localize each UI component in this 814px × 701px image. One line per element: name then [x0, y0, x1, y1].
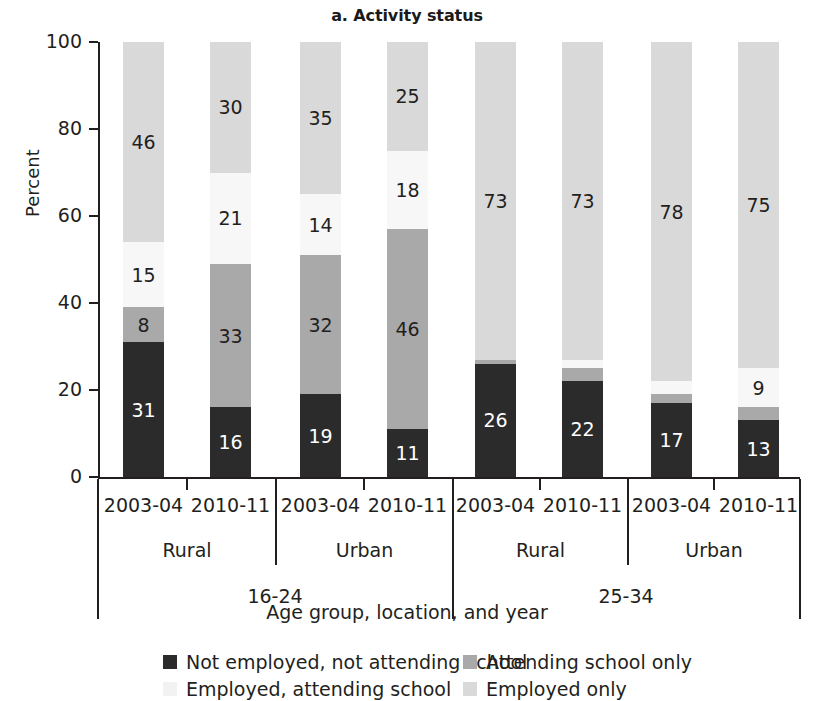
legend-label: Employed only: [486, 678, 627, 700]
legend-item-employed-only[interactable]: Employed only: [463, 678, 693, 700]
legend-label: Attending school only: [486, 651, 692, 673]
x-axis-location-separator: [275, 479, 277, 565]
bar-segment-attending_only: 46: [387, 229, 428, 429]
bar-segment-attending_only: [738, 407, 779, 420]
stacked-bar: 25184611: [387, 42, 428, 477]
bar-segment-not_employed_not_attending: 31: [123, 342, 164, 477]
x-axis-location-label: Rural: [481, 539, 601, 561]
stacked-bar: 35143219: [300, 42, 341, 477]
x-axis-year-label: 2010-11: [711, 494, 807, 516]
legend-item-attending-school-only[interactable]: Attending school only: [463, 651, 693, 673]
x-axis-year-label: 2010-11: [535, 494, 631, 516]
bar-segment-employed_attending: [651, 381, 692, 394]
bar-segment-value-label: 25: [387, 87, 428, 106]
y-axis-line: [98, 42, 100, 477]
stacked-bar: 7322: [562, 42, 603, 477]
x-axis-location-label: Urban: [654, 539, 774, 561]
bar-segment-not_employed_not_attending: 13: [738, 420, 779, 477]
bar-segment-attending_only: 33: [210, 264, 251, 408]
y-axis-tick-label: 40: [22, 293, 82, 312]
stacked-bar: 30213316: [210, 42, 251, 477]
y-axis-tick: [89, 302, 98, 304]
bar-segment-employed_only: 25: [387, 42, 428, 151]
bar-segment-value-label: 75: [738, 196, 779, 215]
bar-segment-employed_only: 75: [738, 42, 779, 368]
bar-segment-value-label: 31: [123, 400, 164, 419]
plot-area: Percent 100806040200 4615831302133163514…: [98, 42, 800, 477]
x-axis-year-label: 2003-04: [96, 494, 192, 516]
bar-segment-value-label: 46: [123, 133, 164, 152]
bar-segment-not_employed_not_attending: 16: [210, 407, 251, 477]
x-axis-location-label: Urban: [305, 539, 425, 561]
bar-segment-employed_only: 78: [651, 42, 692, 381]
y-axis-tick-label: 20: [22, 380, 82, 399]
bar-segment-employed_attending: 18: [387, 151, 428, 229]
x-axis-tick: [539, 479, 541, 490]
y-axis-tick: [89, 41, 98, 43]
chart-title: a. Activity status: [0, 6, 814, 25]
y-axis-tick: [89, 476, 98, 478]
bar-segment-not_employed_not_attending: 11: [387, 429, 428, 477]
x-axis-location-label: Rural: [127, 539, 247, 561]
chart-legend: Not employed, not attending school Atten…: [163, 648, 693, 701]
y-axis-tick-label: 60: [22, 206, 82, 225]
y-axis-tick-label: 0: [22, 467, 82, 486]
y-axis-tick: [89, 389, 98, 391]
legend-swatch-icon: [463, 655, 477, 669]
bar-segment-not_employed_not_attending: 19: [300, 394, 341, 477]
x-axis-year-label: 2010-11: [360, 494, 456, 516]
legend-swatch-icon: [163, 682, 177, 696]
bar-segment-value-label: 9: [738, 378, 779, 397]
x-axis-tick: [186, 479, 188, 490]
stacked-bar: 75913: [738, 42, 779, 477]
bar-segment-employed_attending: 9: [738, 368, 779, 407]
bar-segment-value-label: 73: [475, 191, 516, 210]
y-axis-tick: [89, 128, 98, 130]
stacked-bar: 7817: [651, 42, 692, 477]
bar-segment-employed_attending: [562, 360, 603, 369]
bar-segment-value-label: 13: [738, 439, 779, 458]
bar-segment-value-label: 16: [210, 433, 251, 452]
x-axis-tick: [713, 479, 715, 490]
legend-item-not-employed-not-attending[interactable]: Not employed, not attending school: [163, 651, 463, 673]
x-axis-year-label: 2003-04: [448, 494, 544, 516]
legend-swatch-icon: [163, 655, 177, 669]
legend-item-employed-attending-school[interactable]: Employed, attending school: [163, 678, 463, 700]
x-axis-title: Age group, location, and year: [0, 601, 814, 623]
bar-segment-not_employed_not_attending: 26: [475, 364, 516, 477]
bar-segment-attending_only: [651, 394, 692, 403]
bar-segment-attending_only: 32: [300, 255, 341, 394]
x-axis-year-label: 2010-11: [183, 494, 279, 516]
bar-segment-employed_only: 30: [210, 42, 251, 173]
legend-row: Not employed, not attending school Atten…: [163, 648, 693, 675]
bar-segment-value-label: 18: [387, 180, 428, 199]
legend-swatch-icon: [463, 682, 477, 696]
bar-segment-value-label: 21: [210, 209, 251, 228]
bar-segment-not_employed_not_attending: 22: [562, 381, 603, 477]
x-axis-year-label: 2003-04: [273, 494, 369, 516]
bar-segment-value-label: 46: [387, 320, 428, 339]
x-axis-tick: [363, 479, 365, 490]
stacked-bar: 4615831: [123, 42, 164, 477]
legend-row: Employed, attending school Employed only: [163, 675, 693, 701]
bar-segment-value-label: 33: [210, 326, 251, 345]
bar-segment-value-label: 30: [210, 98, 251, 117]
bar-segment-employed_only: 73: [475, 42, 516, 360]
bar-segment-value-label: 11: [387, 444, 428, 463]
bar-segment-not_employed_not_attending: 17: [651, 403, 692, 477]
bar-segment-value-label: 19: [300, 426, 341, 445]
bar-segment-employed_only: 35: [300, 42, 341, 194]
bar-segment-value-label: 78: [651, 202, 692, 221]
y-axis-tick: [89, 215, 98, 217]
stacked-bar: 7326: [475, 42, 516, 477]
bar-segment-employed_attending: 21: [210, 173, 251, 264]
x-axis-location-separator: [627, 479, 629, 565]
bar-segment-value-label: 17: [651, 431, 692, 450]
x-axis-year-label: 2003-04: [624, 494, 720, 516]
bar-segment-attending_only: [562, 368, 603, 381]
bar-segment-value-label: 73: [562, 191, 603, 210]
bar-segment-value-label: 8: [123, 315, 164, 334]
bar-segment-value-label: 35: [300, 109, 341, 128]
bar-segment-attending_only: 8: [123, 307, 164, 342]
bar-segment-employed_only: 46: [123, 42, 164, 242]
